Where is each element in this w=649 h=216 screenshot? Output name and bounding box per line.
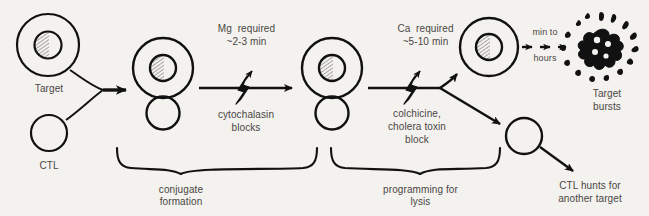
label-lysis-timing-line1: min to xyxy=(519,27,571,37)
label-mg-duration: ~2-3 min xyxy=(189,36,304,48)
label-brace-lysis-line2: lysis xyxy=(363,196,478,208)
label-ca-duration: ~5-10 min xyxy=(368,36,483,48)
label-mg-requirement: Mg required xyxy=(189,23,304,35)
label-ctl-recycle-line1: CTL hunts for xyxy=(538,180,642,192)
conjugation-arrow xyxy=(66,70,126,120)
brace-programming-lysis xyxy=(331,148,500,174)
label-brace-conjugate-line2: formation xyxy=(131,196,231,208)
conjugate-cell-pair-two xyxy=(302,38,362,130)
label-colchicine-line1: colchicine, xyxy=(362,108,472,120)
ctl-recycle-arrow xyxy=(540,147,573,171)
label-cytochalasin-line1: cytochalasin xyxy=(192,109,300,121)
label-cytochalasin-line2: blocks xyxy=(192,122,300,134)
label-ca-requirement: Ca required xyxy=(368,23,483,35)
label-colchicine-line3: block xyxy=(362,134,472,146)
label-brace-conjugate-line1: conjugate xyxy=(131,184,231,196)
ctl-cell-initial xyxy=(31,115,67,151)
label-target-bursts-line2: bursts xyxy=(571,101,643,113)
label-target-cell: Target xyxy=(18,83,80,95)
label-target-bursts-line1: Target xyxy=(571,88,643,100)
target-cell-burst xyxy=(560,12,638,82)
label-ctl-recycle-line2: another target xyxy=(538,193,642,205)
label-lysis-timing-line2: hours xyxy=(519,53,571,63)
ctl-cell-recycled xyxy=(506,118,542,154)
diagram-canvas: Target CTL Mg required ~2-3 min cytochal… xyxy=(0,0,649,216)
branch-arrow-to-target xyxy=(440,74,457,88)
label-brace-lysis-line1: programming for xyxy=(363,184,478,196)
conjugate-cell-pair-one xyxy=(133,38,193,130)
brace-conjugate-formation xyxy=(117,148,317,174)
label-colchicine-line2: cholera toxin xyxy=(362,121,472,133)
target-cell-initial xyxy=(17,14,79,76)
label-ctl-cell: CTL xyxy=(20,160,78,172)
